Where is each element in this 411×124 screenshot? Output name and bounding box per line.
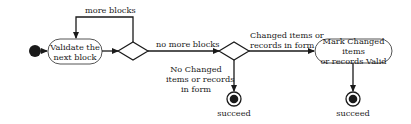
more-blocks-label: more blocks — [85, 5, 135, 15]
edge-more-blocks-loop — [76, 17, 133, 42]
final-node-2 — [346, 92, 360, 106]
no-changed-label-line2: items or records — [166, 74, 226, 84]
no-more-blocks-label: no more blocks — [156, 39, 214, 49]
initial-node — [29, 45, 41, 57]
changed-items-label: Changed items or records in form — [250, 30, 310, 50]
mark-valid-label-line2: or records Valid — [320, 56, 386, 66]
final-node-2-label: succeed — [333, 108, 373, 118]
validate-action-label: Validate the next block — [48, 40, 102, 63]
validate-label-line2: next block — [54, 52, 97, 62]
changed-label-line2: records in form — [250, 40, 310, 50]
no-changed-items-label: No Changed items or records in form — [166, 64, 226, 94]
mark-valid-action-label: Mark Changed items or records Valid — [315, 40, 392, 62]
changed-label-line1: Changed items or — [250, 30, 310, 40]
no-changed-label-line1: No Changed — [166, 64, 226, 74]
decision1-diamond — [118, 42, 148, 60]
decision2-diamond — [219, 42, 249, 60]
mark-valid-label-line1: Mark Changed items — [315, 36, 392, 56]
validate-label-line1: Validate the — [50, 42, 100, 52]
no-changed-label-line3: in form — [166, 84, 226, 94]
final-node-1 — [227, 92, 241, 106]
final-node-1-label: succeed — [214, 108, 254, 118]
